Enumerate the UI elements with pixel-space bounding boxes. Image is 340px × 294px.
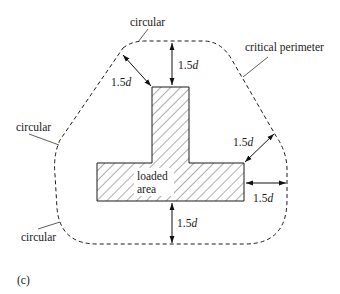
label-circular-top: circular bbox=[130, 16, 165, 28]
label-circular-bottom: circular bbox=[21, 231, 56, 243]
critical-perimeter-diagram: loaded area 1.5d 1.5d 1.5d 1.5d 1.5d cir… bbox=[0, 0, 340, 294]
leader-circular-left bbox=[29, 134, 59, 145]
dimension-label-right: 1.5d bbox=[253, 192, 273, 204]
loaded-area-label-1: loaded bbox=[137, 170, 168, 182]
leader-critical-perimeter bbox=[243, 57, 268, 77]
dimension-label-bottom: 1.5d bbox=[177, 217, 197, 229]
leader-circular-top bbox=[138, 29, 148, 42]
label-circular-left: circular bbox=[16, 121, 51, 133]
loaded-area-label-2: area bbox=[137, 183, 156, 195]
panel-label: (c) bbox=[17, 274, 30, 287]
dimension-label-top: 1.5d bbox=[178, 59, 198, 71]
leader-circular-bottom bbox=[38, 222, 60, 229]
dimension-label-top-left: 1.5d bbox=[111, 76, 131, 88]
dimension-label-right-diag: 1.5d bbox=[233, 136, 253, 148]
label-critical-perimeter: critical perimeter bbox=[245, 41, 324, 54]
